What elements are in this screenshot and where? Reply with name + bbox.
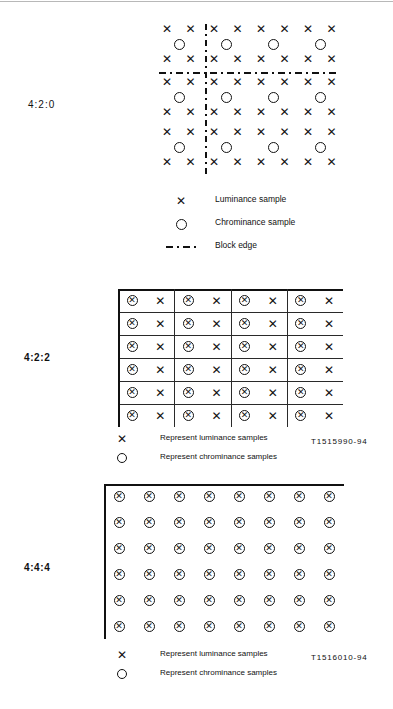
x-icon: ✕ bbox=[170, 193, 192, 209]
luminance-sample: ✕ bbox=[208, 126, 220, 138]
luminance-sample: ✕ bbox=[268, 410, 278, 422]
sample-cell: ✕ bbox=[314, 587, 344, 613]
sample-cell: ✕ bbox=[231, 335, 259, 358]
luminance-x: ✕ bbox=[264, 543, 275, 554]
luminance-x: ✕ bbox=[114, 569, 125, 580]
luminance-chrominance-sample: ✕ bbox=[114, 621, 125, 632]
sample-cell: ✕ bbox=[287, 335, 315, 358]
sample-cell: ✕ bbox=[224, 510, 254, 536]
luminance-sample: ✕ bbox=[185, 76, 197, 88]
luminance-x: ✕ bbox=[295, 387, 306, 398]
luminance-sample: ✕ bbox=[208, 23, 220, 35]
luminance-sample: ✕ bbox=[185, 106, 197, 118]
luminance-sample: ✕ bbox=[324, 387, 334, 399]
sample-cell: ✕ bbox=[202, 312, 230, 335]
grid-line-vertical bbox=[174, 289, 175, 427]
sample-cell: ✕ bbox=[194, 587, 224, 613]
luminance-sample: ✕ bbox=[185, 126, 197, 138]
chrominance-sample bbox=[315, 39, 326, 50]
sample-cell: ✕ bbox=[231, 404, 259, 427]
luminance-chrominance-sample: ✕ bbox=[114, 569, 125, 580]
luminance-sample: ✕ bbox=[255, 126, 267, 138]
chrominance-sample bbox=[268, 92, 279, 103]
luminance-chrominance-sample: ✕ bbox=[174, 517, 185, 528]
luminance-chrominance-sample: ✕ bbox=[127, 341, 138, 352]
luminance-x: ✕ bbox=[295, 364, 306, 375]
luminance-x: ✕ bbox=[144, 543, 155, 554]
sample-cell: ✕ bbox=[254, 562, 284, 588]
luminance-x: ✕ bbox=[144, 491, 155, 502]
luminance-x: ✕ bbox=[264, 595, 275, 606]
luminance-x: ✕ bbox=[174, 517, 185, 528]
sample-cell: ✕ bbox=[224, 613, 254, 639]
sample-cell: ✕ bbox=[202, 404, 230, 427]
luminance-chrominance-sample: ✕ bbox=[324, 543, 335, 554]
luminance-x: ✕ bbox=[204, 543, 215, 554]
luminance-chrominance-sample: ✕ bbox=[324, 595, 335, 606]
sample-cell: ✕ bbox=[314, 562, 344, 588]
luminance-chrominance-sample: ✕ bbox=[234, 517, 245, 528]
luminance-chrominance-sample: ✕ bbox=[234, 621, 245, 632]
luminance-x: ✕ bbox=[294, 491, 305, 502]
sample-cell: ✕ bbox=[315, 358, 343, 381]
luminance-sample: ✕ bbox=[268, 295, 278, 307]
luminance-x: ✕ bbox=[295, 341, 306, 352]
sample-cell: ✕ bbox=[231, 289, 259, 312]
sample-cell: ✕ bbox=[202, 289, 230, 312]
luminance-x: ✕ bbox=[114, 491, 125, 502]
luminance-x: ✕ bbox=[239, 318, 250, 329]
luminance-sample: ✕ bbox=[161, 53, 173, 65]
sample-cell: ✕ bbox=[254, 484, 284, 510]
luminance-sample: ✕ bbox=[211, 410, 221, 422]
grid-line-vertical bbox=[287, 289, 288, 427]
chrominance-sample bbox=[315, 142, 326, 153]
luminance-x: ✕ bbox=[324, 569, 335, 580]
diagram-444: ✕✕✕✕✕✕✕✕✕✕✕✕✕✕✕✕✕✕✕✕✕✕✕✕✕✕✕✕✕✕✕✕✕✕✕✕✕✕✕✕… bbox=[104, 484, 344, 639]
sample-cell: ✕ bbox=[134, 536, 164, 562]
luminance-sample: ✕ bbox=[185, 53, 197, 65]
sample-cell: ✕ bbox=[202, 381, 230, 404]
luminance-x: ✕ bbox=[234, 621, 245, 632]
sample-cell: ✕ bbox=[314, 510, 344, 536]
luminance-sample: ✕ bbox=[155, 318, 165, 330]
luminance-sample: ✕ bbox=[208, 106, 220, 118]
legend-item-label: Represent chrominance samples bbox=[160, 452, 277, 461]
luminance-chrominance-sample: ✕ bbox=[264, 491, 275, 502]
luminance-x: ✕ bbox=[264, 517, 275, 528]
luminance-chrominance-sample: ✕ bbox=[144, 569, 155, 580]
sample-cell: ✕ bbox=[118, 335, 146, 358]
legend-420: ✕ Luminance sample Chrominance sample Bl… bbox=[170, 193, 380, 262]
luminance-x: ✕ bbox=[183, 410, 194, 421]
sample-cell: ✕ bbox=[287, 358, 315, 381]
chrominance-sample bbox=[268, 142, 279, 153]
luminance-sample: ✕ bbox=[161, 23, 173, 35]
sample-cell: ✕ bbox=[134, 613, 164, 639]
luminance-chrominance-sample: ✕ bbox=[127, 295, 138, 306]
sample-cell: ✕ bbox=[254, 536, 284, 562]
legend-item: Block edge bbox=[170, 239, 380, 262]
sample-cell: ✕ bbox=[164, 510, 194, 536]
luminance-sample: ✕ bbox=[326, 126, 338, 138]
luminance-x: ✕ bbox=[114, 595, 125, 606]
luminance-chrominance-sample: ✕ bbox=[264, 517, 275, 528]
luminance-x: ✕ bbox=[294, 595, 305, 606]
luminance-sample: ✕ bbox=[208, 156, 220, 168]
sample-cell: ✕ bbox=[118, 289, 146, 312]
sample-cell: ✕ bbox=[194, 613, 224, 639]
luminance-chrominance-sample: ✕ bbox=[294, 569, 305, 580]
luminance-sample: ✕ bbox=[268, 364, 278, 376]
dash-dot-line-icon bbox=[162, 239, 200, 255]
diagram-420: ✕✕✕✕✕✕✕✕✕✕✕✕✕✕✕✕✕✕✕✕✕✕✕✕✕✕✕✕✕✕✕✕✕✕✕✕✕✕✕✕… bbox=[163, 26, 333, 171]
luminance-x: ✕ bbox=[114, 517, 125, 528]
figure-reference-422: T1515990-94 bbox=[311, 437, 367, 446]
luminance-x: ✕ bbox=[183, 341, 194, 352]
luminance-chrominance-sample: ✕ bbox=[114, 491, 125, 502]
luminance-sample: ✕ bbox=[302, 53, 314, 65]
luminance-chrominance-sample: ✕ bbox=[234, 491, 245, 502]
luminance-chrominance-sample: ✕ bbox=[174, 595, 185, 606]
luminance-sample: ✕ bbox=[161, 76, 173, 88]
luminance-x: ✕ bbox=[295, 295, 306, 306]
luminance-x: ✕ bbox=[174, 621, 185, 632]
luminance-sample: ✕ bbox=[211, 387, 221, 399]
luminance-chrominance-sample: ✕ bbox=[294, 491, 305, 502]
